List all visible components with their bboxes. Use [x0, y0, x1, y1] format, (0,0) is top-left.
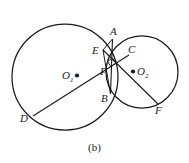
dot-o1-icon [75, 73, 79, 77]
point-label-c: C [128, 44, 135, 55]
segment-ae [103, 39, 113, 50]
geometry-figure: A B C D E F P O1 O2 (b) [0, 0, 189, 163]
center-label-o1-main: O [62, 69, 70, 81]
point-label-b: B [101, 93, 108, 104]
center-label-o2: O2 [137, 66, 148, 80]
point-label-d: D [20, 113, 28, 124]
point-label-a: A [110, 26, 117, 37]
center-label-o2-sub: 2 [145, 72, 149, 80]
center-label-o1-sub: 1 [70, 76, 74, 84]
center-label-o2-main: O [137, 65, 145, 77]
geometry-canvas [0, 0, 189, 163]
dot-o2-icon [131, 69, 135, 73]
point-label-p: P [100, 66, 107, 77]
point-label-e: E [92, 45, 99, 56]
figure-caption: (b) [0, 141, 189, 153]
center-label-o1: O1 [62, 70, 73, 84]
point-label-f: F [155, 105, 162, 116]
